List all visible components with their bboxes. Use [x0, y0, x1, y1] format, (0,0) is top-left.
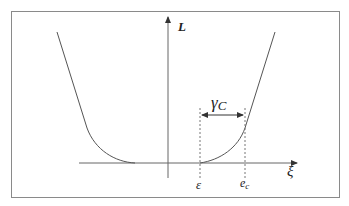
epsilon-label: ε: [196, 177, 202, 192]
gamma-label: γC: [211, 93, 227, 113]
loss-curve-left: [57, 32, 135, 163]
loss-function-diagram: L γC ε ec ξ: [0, 0, 349, 206]
x-axis-label: ξ: [287, 163, 294, 179]
ec-label: ec: [240, 176, 249, 191]
diagram-canvas: L γC ε ec ξ: [0, 0, 349, 206]
y-axis-label: L: [177, 19, 186, 34]
